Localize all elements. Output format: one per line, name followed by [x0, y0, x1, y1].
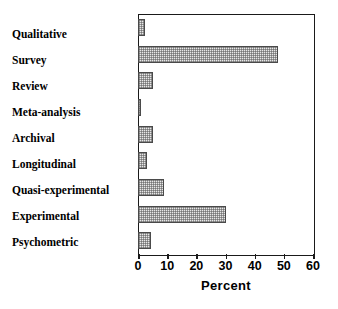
- x-tick-label-50: 50: [277, 259, 291, 273]
- category-label-meta-analysis: Meta-analysis: [0, 106, 129, 118]
- bar-quasi-experimental: [138, 179, 164, 196]
- category-label-review: Review: [0, 80, 129, 92]
- bar-archival: [138, 126, 153, 143]
- bars-layer: [138, 14, 313, 254]
- bar-chart: Qualitative Survey Review Meta-analysis …: [0, 0, 338, 309]
- category-label-survey: Survey: [0, 54, 129, 66]
- x-tick-label-30: 30: [219, 259, 233, 273]
- category-label-longitudinal: Longitudinal: [0, 158, 129, 170]
- x-axis-tick-labels: 0102030405060: [0, 259, 338, 275]
- category-label-archival: Archival: [0, 132, 129, 144]
- bar-psychometric: [138, 232, 151, 249]
- bar-review: [138, 72, 153, 89]
- bar-survey: [138, 46, 278, 63]
- x-tick-label-40: 40: [248, 259, 262, 273]
- category-label-psychometric: Psychometric: [0, 236, 129, 248]
- category-axis-labels: Qualitative Survey Review Meta-analysis …: [0, 14, 133, 254]
- bar-longitudinal: [138, 152, 147, 169]
- bar-qualitative: [138, 19, 145, 36]
- category-label-experimental: Experimental: [0, 210, 129, 222]
- x-tick-label-0: 0: [135, 259, 142, 273]
- x-tick-label-60: 60: [306, 259, 320, 273]
- x-axis-title: Percent: [138, 278, 314, 293]
- x-tick-label-10: 10: [160, 259, 174, 273]
- bar-meta-analysis: [138, 99, 141, 116]
- category-label-qualitative: Qualitative: [0, 28, 129, 40]
- bar-experimental: [138, 206, 226, 223]
- category-label-quasi-experimental: Quasi-experimental: [0, 184, 129, 196]
- x-tick-label-20: 20: [189, 259, 203, 273]
